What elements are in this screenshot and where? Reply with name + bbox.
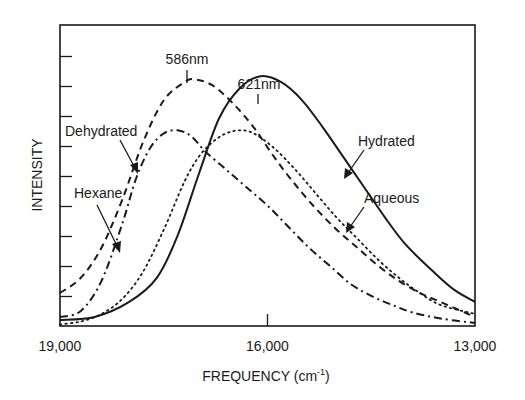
- x-axis-title: FREQUENCY (cm-1): [202, 367, 330, 384]
- label-aqueous: Aqueous: [364, 190, 419, 206]
- x-axis-title-main: FREQUENCY (cm: [202, 368, 317, 384]
- annotations: 586nm 621nm Dehydrated Hexane Hydrated A…: [65, 51, 419, 253]
- plot-border: [60, 25, 475, 326]
- spectrum-chart: 19,00016,00013,000 586nm 621nm Dehydrate…: [0, 0, 525, 400]
- label-hexane: Hexane: [74, 185, 122, 201]
- annotation-586nm: 586nm: [166, 51, 209, 67]
- plot-frame: [60, 25, 475, 326]
- arrow-aqueous: [346, 207, 364, 233]
- arrow-hydrated: [344, 150, 364, 179]
- x-axis-title-close: ): [325, 368, 330, 384]
- curve-aqueous: [60, 130, 475, 324]
- x-axis-title-sup: -1: [317, 367, 325, 377]
- label-dehydrated: Dehydrated: [65, 123, 137, 139]
- arrow-dehydrated: [120, 140, 138, 174]
- y-axis-title: INTENSITY: [29, 138, 45, 212]
- x-tick-label: 16,000: [246, 338, 289, 354]
- curve-hexane: [60, 130, 475, 323]
- x-tick-label: 13,000: [454, 338, 497, 354]
- x-tick-label: 19,000: [39, 338, 82, 354]
- label-hydrated: Hydrated: [358, 133, 415, 149]
- x-axis-ticks: 19,00016,00013,000: [39, 314, 497, 354]
- annotation-621nm: 621nm: [238, 76, 281, 92]
- y-axis-ticks: [60, 57, 72, 297]
